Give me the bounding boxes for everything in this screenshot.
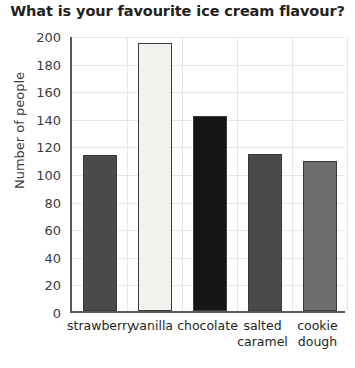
x-axis-tick-labels: strawberryvanillachocolatesaltedcaramelc… [70,318,355,368]
bar-vanilla [138,43,172,311]
y-tick-label: 60 [44,223,61,238]
x-tick-label: vanilla [122,318,183,334]
y-axis-tick-labels: 020406080100120140160180200 [0,0,68,368]
x-tick-label: strawberry [67,318,128,334]
x-tick-label: saltedcaramel [232,318,293,350]
y-tick-label: 20 [44,278,61,293]
gridline-vertical [347,37,348,311]
y-tick-label: 40 [44,250,61,265]
bar-chart: What is your favourite ice cream flavour… [0,0,355,368]
y-tick-label: 100 [36,168,61,183]
bar-salted-caramel [248,154,282,311]
chart-title: What is your favourite ice cream flavour… [0,3,355,19]
plot-area [70,37,345,313]
bar-strawberry [83,155,117,311]
y-tick-label: 120 [36,140,61,155]
y-axis-title: Number of people [12,46,27,216]
x-tick-label: cookiedough [287,318,348,350]
y-tick-label: 180 [36,57,61,72]
y-tick-label: 0 [53,306,61,321]
y-tick-label: 200 [36,30,61,45]
bars-layer [72,37,345,311]
y-tick-label: 140 [36,112,61,127]
bar-cookie-dough [303,161,337,311]
x-tick-label: chocolate [177,318,238,334]
bar-chocolate [193,116,227,311]
y-tick-label: 80 [44,195,61,210]
y-tick-label: 160 [36,85,61,100]
